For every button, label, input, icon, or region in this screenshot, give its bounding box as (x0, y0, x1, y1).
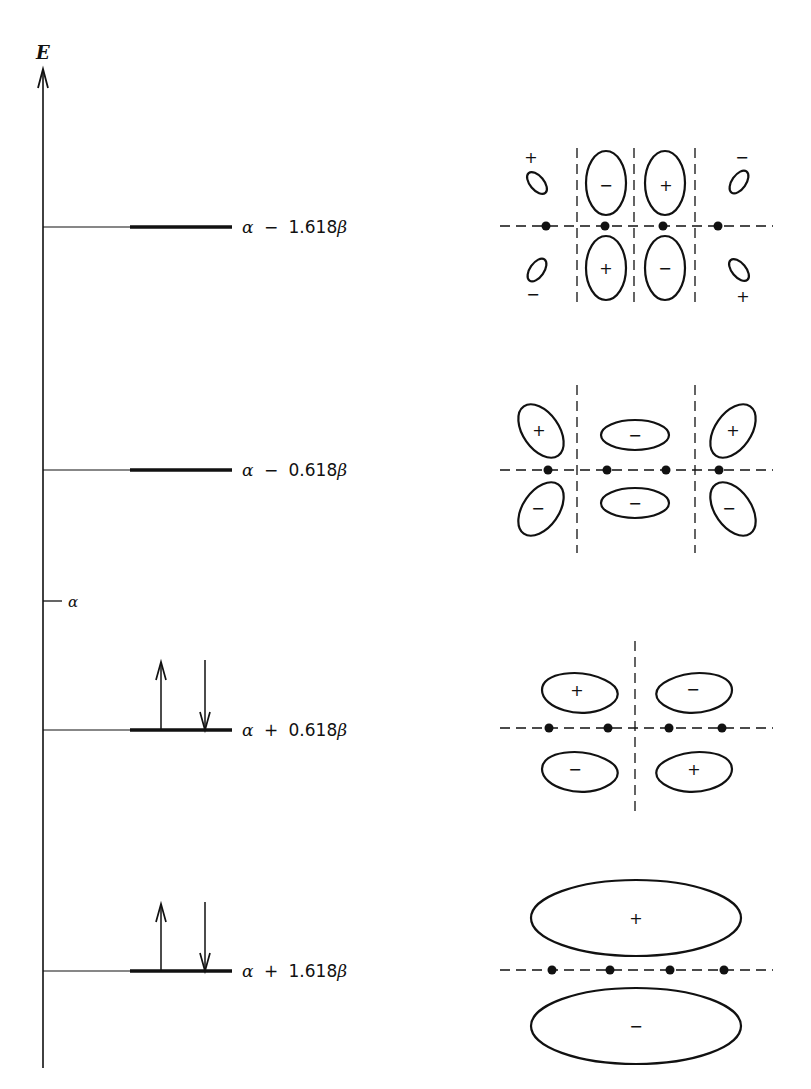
svg-text:−: − (599, 176, 612, 195)
svg-text:+: + (532, 421, 545, 440)
carbon-atom (544, 466, 553, 475)
carbon-atom (718, 724, 727, 733)
svg-text:+: + (629, 909, 642, 928)
svg-text:−: − (628, 494, 641, 513)
svg-text:−: − (531, 499, 544, 518)
carbon-atom (666, 966, 675, 975)
svg-text:+: + (570, 681, 583, 700)
carbon-atom (604, 724, 613, 733)
orbital-diagram-psi1: + − (500, 880, 773, 1064)
orbital-diagram-psi3: + − + − − − (500, 385, 773, 553)
carbon-atom (715, 466, 724, 475)
svg-text:−: − (629, 1017, 642, 1036)
svg-text:−: − (722, 499, 735, 518)
carbon-atom (542, 222, 551, 231)
svg-text:−: − (526, 285, 539, 304)
mo-energy-diagram: E α α − 1.618β α − 0.618β α + 0. (0, 0, 811, 1089)
energy-level-psi4: α − 1.618β (43, 217, 347, 237)
svg-text:−: − (735, 148, 748, 167)
svg-text:−: − (568, 760, 581, 779)
energy-level-psi3: α − 0.618β (43, 460, 347, 480)
svg-text:−: − (658, 259, 671, 278)
carbon-atom (545, 724, 554, 733)
orbital-diagram-psi2: + − − + (500, 641, 773, 815)
carbon-atom (665, 724, 674, 733)
svg-text:+: + (659, 176, 672, 195)
svg-text:−: − (686, 680, 699, 699)
energy-label: α − 1.618β (242, 217, 347, 237)
carbon-atom (720, 966, 729, 975)
carbon-atom (603, 466, 612, 475)
svg-text:+: + (736, 287, 749, 306)
svg-text:+: + (599, 259, 612, 278)
energy-level-psi2: α + 0.618β (43, 660, 347, 740)
carbon-atom (601, 222, 610, 231)
carbon-atom (659, 222, 668, 231)
energy-label: α + 0.618β (242, 720, 347, 740)
energy-axis: E α (35, 42, 78, 1068)
carbon-atom (714, 222, 723, 231)
orbital-diagram-psi4: + − + − − + − + (500, 148, 773, 306)
svg-text:+: + (524, 148, 537, 167)
carbon-atom (662, 466, 671, 475)
energy-label: α − 0.618β (242, 460, 347, 480)
energy-level-psi1: α + 1.618β (43, 902, 347, 981)
carbon-atom (548, 966, 557, 975)
svg-text:+: + (687, 760, 700, 779)
energy-label: α + 1.618β (242, 961, 347, 981)
axis-label: E (35, 42, 50, 63)
svg-text:+: + (726, 421, 739, 440)
carbon-atom (606, 966, 615, 975)
alpha-reference-label: α (68, 593, 78, 611)
svg-text:−: − (628, 426, 641, 445)
